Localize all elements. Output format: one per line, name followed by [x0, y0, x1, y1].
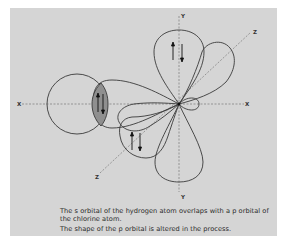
chlorine-p-orbital-z-upper-lobe [179, 42, 234, 104]
z-axis-label-top: Z [253, 29, 257, 35]
overlap-region [92, 83, 108, 126]
x-axis-label-left: X [17, 101, 22, 107]
chlorine-nucleus [178, 103, 181, 106]
y-axis-label-bottom: Y [180, 194, 186, 200]
z-axis-label-bottom: Z [95, 174, 99, 180]
z-axis [100, 33, 250, 173]
caption-line-2: The shape of the p orbital is altered in… [60, 225, 272, 233]
y-axis-label-top: Y [180, 13, 186, 19]
caption-line-1: The s orbital of the hydrogen atom overl… [60, 207, 272, 224]
electron-pair-y-upper [172, 42, 184, 62]
x-axis-label-right: X [245, 101, 250, 107]
chlorine-p-orbital-z-lower-lobe [118, 103, 179, 131]
electron-pair-z-lower [131, 132, 142, 151]
